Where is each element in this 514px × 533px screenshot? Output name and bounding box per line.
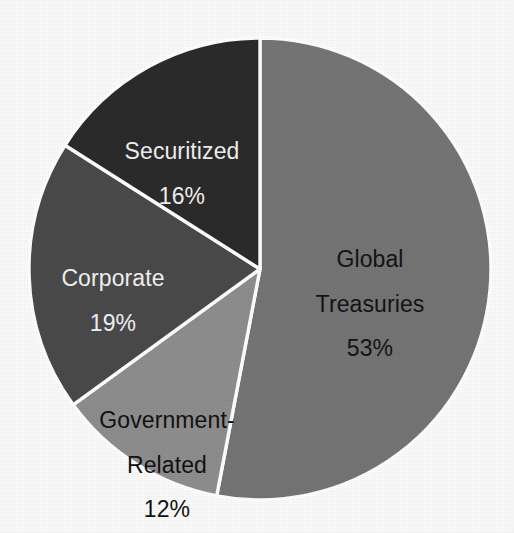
pie-slice-group <box>29 38 491 500</box>
pie-chart-canvas <box>0 0 514 533</box>
pie-chart: Global Treasuries 53% Government- Relate… <box>0 0 514 533</box>
